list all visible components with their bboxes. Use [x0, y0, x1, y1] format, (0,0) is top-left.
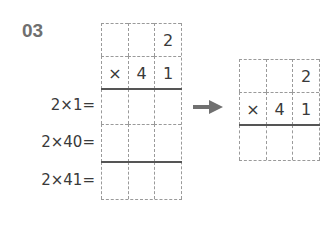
right-arrow-icon [193, 100, 223, 114]
grid-cell[interactable] [266, 125, 292, 160]
grid-cell: 1 [292, 92, 319, 125]
grid-cell: 4 [266, 92, 292, 125]
sum-line [101, 161, 182, 163]
grid-cell: × [101, 56, 128, 89]
grid-cell: 2 [154, 23, 181, 56]
result-line [239, 124, 320, 126]
grid-cell[interactable] [101, 89, 128, 124]
grid-cell: 1 [154, 56, 181, 89]
grid-cell[interactable] [292, 125, 319, 160]
result-line [101, 88, 182, 90]
grid-border [181, 23, 182, 199]
grid-cell[interactable] [128, 89, 154, 124]
grid-cell[interactable] [154, 162, 181, 199]
partial-product-label: 2×1= [51, 96, 95, 114]
grid-cell[interactable] [239, 125, 266, 160]
grid-cell [101, 23, 128, 56]
grid-cell [239, 59, 266, 92]
grid-border [319, 59, 320, 160]
grid-cell [266, 59, 292, 92]
grid-cell[interactable] [101, 162, 128, 199]
total-product-label: 2×41= [41, 171, 95, 189]
grid-cell: 2 [292, 59, 319, 92]
grid-cell[interactable] [101, 124, 128, 162]
grid-cell: × [239, 92, 266, 125]
grid-cell[interactable] [154, 124, 181, 162]
grid-cell [128, 23, 154, 56]
grid-cell[interactable] [128, 124, 154, 162]
partial-product-label: 2×40= [41, 133, 95, 151]
problem-number: 03 [22, 20, 43, 42]
grid-cell[interactable] [128, 162, 154, 199]
grid-border [101, 199, 182, 200]
grid-cell[interactable] [154, 89, 181, 124]
grid-cell: 4 [128, 56, 154, 89]
grid-border [239, 160, 320, 161]
